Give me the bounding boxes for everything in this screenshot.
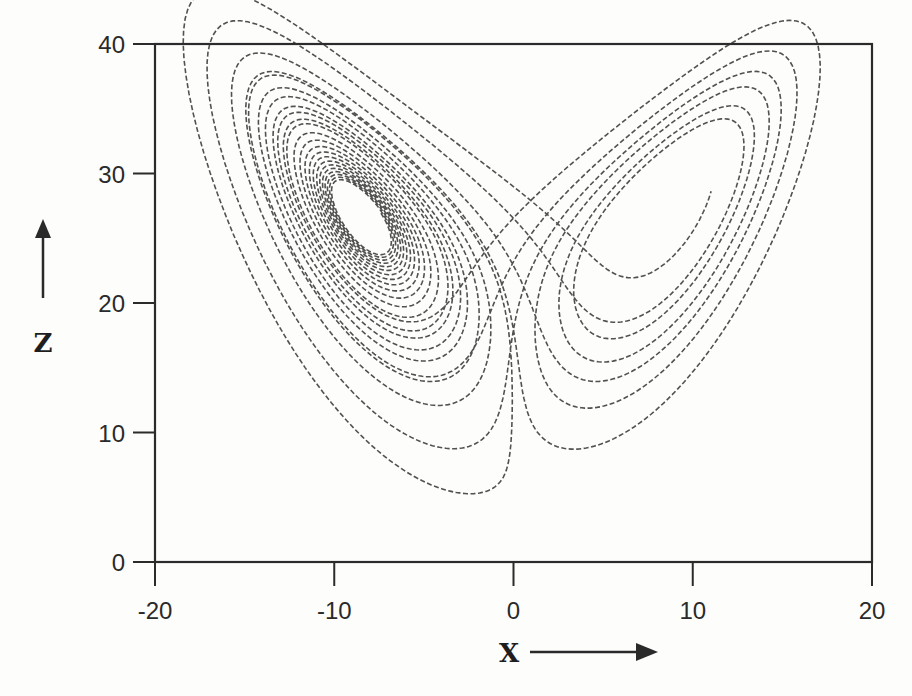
y-tick-label: 10 xyxy=(98,420,125,447)
x-tick-label: 10 xyxy=(679,597,706,624)
z-axis-indicator: Z xyxy=(34,219,53,358)
plot-border xyxy=(155,44,872,562)
x-tick-label: 20 xyxy=(859,597,886,624)
z-axis-label: Z xyxy=(34,328,53,358)
right-arrow-icon xyxy=(636,643,658,661)
x-axis-indicator: X xyxy=(499,638,658,668)
y-tick-label: 30 xyxy=(98,161,125,188)
y-tick-label: 20 xyxy=(98,290,125,317)
lorenz-attractor-chart: -20-1001020 010203040 Z X xyxy=(0,0,912,696)
x-tick-label: -10 xyxy=(317,597,352,624)
x-axis-label: X xyxy=(499,638,520,668)
y-tick-label: 0 xyxy=(112,549,125,576)
x-tick-label: 0 xyxy=(507,597,520,624)
x-tick-label: -20 xyxy=(138,597,173,624)
up-arrow-icon xyxy=(35,219,51,238)
y-axis-ticks: 010203040 xyxy=(98,31,155,576)
y-tick-label: 40 xyxy=(98,31,125,58)
plot-frame xyxy=(155,44,872,562)
trajectory-layer xyxy=(183,0,820,494)
lorenz-trajectory-curve xyxy=(183,0,820,494)
x-axis-ticks: -20-1001020 xyxy=(138,562,886,624)
